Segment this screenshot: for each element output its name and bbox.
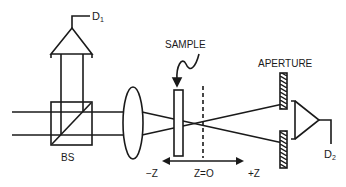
focusing-lens [123,87,143,159]
sample-label: SAMPLE [165,39,206,50]
detector-d1-label: D1 [92,10,104,23]
focused-beams [142,104,283,143]
detector-d2-triangle [295,101,319,139]
beam-splitter-label: BS [61,152,75,163]
sample-pointer-arrow [177,54,199,80]
detector-d1-triangle [51,28,92,54]
detector-d2 [291,101,331,144]
z-zero-label: Z=O [194,168,214,179]
detector-d1 [51,16,92,58]
sample-pointer-arrowhead [173,78,181,86]
aperture [280,73,287,168]
diagram-canvas: D1 BS SAMPLE APERTURE D2 −Z Z=O +Z [0,0,346,187]
plus-z-label: +Z [248,168,260,179]
detector-d2-lead [319,120,331,144]
sample-slab [174,90,183,156]
minus-z-label: −Z [146,168,158,179]
aperture-top-blade [280,73,287,109]
beam-splitter [51,102,92,145]
aperture-bottom-blade [280,131,287,168]
detector-d2-label: D2 [324,148,336,161]
input-beams [12,112,124,135]
aperture-label: APERTURE [258,58,313,69]
detector-d1-lead [72,16,90,28]
z-scan-diagram: D1 BS SAMPLE APERTURE D2 −Z Z=O +Z [0,0,346,187]
